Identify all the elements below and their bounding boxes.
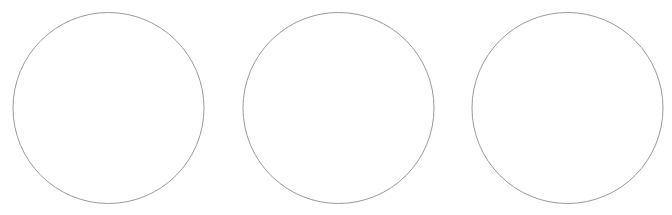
circle-3 [472, 13, 663, 204]
circle-1 [13, 13, 204, 204]
circles-diagram [0, 0, 672, 215]
circle-2 [243, 13, 434, 204]
